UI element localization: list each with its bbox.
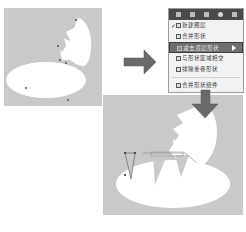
document-icon[interactable] <box>190 12 195 17</box>
merge-components-icon <box>176 83 181 88</box>
menu-item-label: 与形状区域相交 <box>182 55 224 61</box>
menu-item-new-layer[interactable]: ✓ 新建图层 <box>169 20 243 31</box>
layer-icon[interactable] <box>176 12 181 17</box>
menu-separator <box>172 77 240 78</box>
menu-item-label: 新建图层 <box>182 22 206 28</box>
exclude-overlapping-icon <box>176 67 181 72</box>
menu-item-subtract-front-shape[interactable]: 减去顶层形状 <box>169 42 243 53</box>
path-operations-menu: ✓ 新建图层 合并形状 减去顶层形状 与形状区域相交 排除重叠形状 合并形状组件 <box>168 8 244 93</box>
combine-shapes-icon <box>176 34 181 39</box>
cursor-icon <box>232 45 236 51</box>
menu-item-label: 合并形状 <box>182 33 206 39</box>
stack-icon[interactable] <box>204 12 209 17</box>
menu-toolbar <box>169 9 243 20</box>
shapes-before <box>4 8 102 106</box>
intersect-shape-areas-icon <box>176 56 181 61</box>
new-layer-icon <box>176 23 181 28</box>
menu-item-exclude-overlapping[interactable]: 排除重叠形状 <box>169 64 243 75</box>
canvas-after <box>103 95 243 215</box>
menu-item-merge-components[interactable]: 合并形状组件 <box>169 80 243 91</box>
canvas-before <box>4 8 102 106</box>
gear-icon[interactable] <box>218 12 223 17</box>
menu-item-label: 减去顶层形状 <box>183 45 219 51</box>
subtract-front-shape-icon <box>177 46 182 51</box>
shapes-after <box>103 95 243 215</box>
menu-item-intersect-shape-areas[interactable]: 与形状区域相交 <box>169 53 243 64</box>
menu-item-label: 合并形状组件 <box>182 82 218 88</box>
menu-item-label: 排除重叠形状 <box>182 66 218 72</box>
wand-icon[interactable] <box>232 12 237 17</box>
menu-item-combine-shapes[interactable]: 合并形状 <box>169 31 243 42</box>
